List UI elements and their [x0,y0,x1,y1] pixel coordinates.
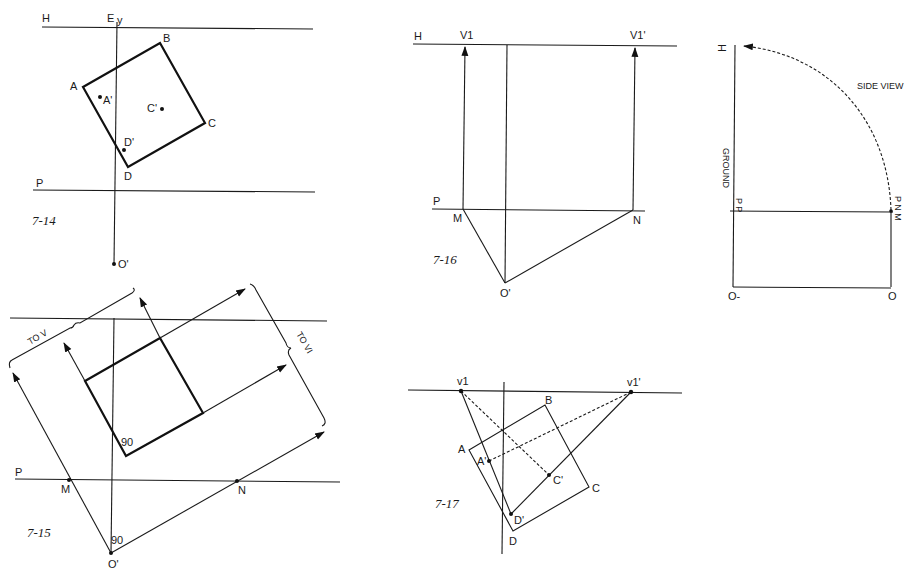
label-n: N [633,214,641,226]
ground-vertical-line [733,45,735,287]
figure-caption: 7-17 [435,496,459,511]
label-v1: V1 [460,29,473,41]
bracket-to-v1 [250,284,325,426]
label-c: C [592,482,600,494]
label-e: E [107,12,114,24]
label-pp: P P [734,198,744,212]
label-angle-square: 90 [121,436,133,448]
label-a: A [458,443,466,455]
point-c-prime [160,107,164,111]
figure-caption: 7-16 [433,252,457,267]
label-y: y [117,14,123,26]
label-to-v1: TO VI [294,330,314,355]
center-vertical-line [502,382,504,554]
point-pnm [889,209,893,213]
horizon-line [408,390,682,393]
figure-7-16: H V1 V1' P M N O' 7-16 [413,29,677,299]
label-c-prime: C' [147,102,157,114]
label-d: D [124,170,132,182]
point-d-prime [509,512,513,516]
figure-caption: 7-14 [32,213,56,228]
edge-arrow-left [64,343,85,381]
label-m: M [453,212,462,224]
perspective-diagram-sheet: H E y A B C D A' C' D' P O' 7-14 TO V TO… [0,0,921,577]
vanishing-line-to-v1 [111,432,324,553]
projector-n-to-v1-prime [633,48,635,210]
label-o-right: O [888,290,897,302]
label-o-prime: O' [108,558,119,570]
line-v1-prime-d-prime [511,392,631,514]
plan-square-abcd [469,405,589,531]
figure-side-view: H SIDE VIEW GROUND P P P N M O- O [716,44,904,302]
label-to-v: TO V [26,328,49,347]
figure-7-17: v1 v1' B A A' C' C D' D 7-17 [408,375,682,554]
picture-plane-line [33,190,315,192]
label-a-prime: A' [477,455,486,467]
base-line [733,287,891,288]
plan-square [85,338,203,456]
label-a: A [70,80,78,92]
horizon-line [413,44,677,46]
label-p: P [433,195,440,207]
line-n-o-prime [505,210,633,283]
edge-arrow-right [203,365,286,413]
point-n [235,479,239,483]
label-v1-prime: V1' [630,29,646,41]
label-h: H [42,12,50,24]
point-m [67,478,71,482]
label-o-prime: O' [118,258,129,270]
horizon-line [10,318,327,321]
line-m-o-prime [463,209,505,283]
label-v1: v1 [457,375,469,387]
label-pnm: P N M [893,196,903,221]
center-vertical-line [505,45,507,283]
picture-plane-line [730,211,893,212]
point-v1-prime [629,390,633,394]
label-b: B [163,32,170,44]
point-a-prime [98,95,102,99]
point-v1 [459,389,463,393]
line-v1-prime-a-prime [489,392,631,461]
edge-arrow-upper-right [160,289,245,338]
label-h: H [414,30,422,42]
label-d-prime: D' [124,136,134,148]
label-n: N [238,484,246,496]
point-a-prime [487,459,491,463]
projector-m-to-v1 [463,47,465,209]
label-d-prime: D' [514,514,524,526]
rotation-arc [744,46,891,210]
point-o-prime [112,262,116,266]
label-o-left: O- [728,290,741,302]
line-v1-c-prime [461,391,549,475]
label-m: M [61,483,70,495]
label-h: H [716,44,728,52]
figure-caption: 7-15 [27,525,51,540]
point-d-prime [122,148,126,152]
point-o-prime [109,551,113,555]
horizon-line [42,27,313,29]
label-p: P [36,177,43,189]
figure-7-14: H E y A B C D A' C' D' P O' 7-14 [32,12,315,270]
label-v1-prime: v1' [627,376,641,388]
point-c-prime [547,473,551,477]
figure-7-15: TO V TO VI 90 90 P M N O' 7-15 [9,284,340,570]
label-o-prime: O' [500,287,511,299]
label-side-view: SIDE VIEW [857,81,904,91]
label-p: P [15,466,22,478]
label-ground: GROUND [721,148,731,188]
label-c: C [208,117,216,129]
edge-arrow-top [140,298,160,338]
label-c-prime: C' [553,474,563,486]
label-b: B [545,394,552,406]
picture-plane-line [15,479,340,482]
label-d: D [509,535,517,547]
label-angle-origin: 90 [111,534,123,546]
label-a-prime: A' [103,94,112,106]
square-abcd [83,43,205,167]
